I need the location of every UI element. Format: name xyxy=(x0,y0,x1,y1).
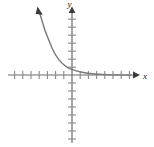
x-axis-arrowhead xyxy=(133,72,140,79)
y-axis-label: y xyxy=(67,0,72,9)
x-axis-label: x xyxy=(142,71,147,81)
curve-arrowhead xyxy=(36,7,43,15)
exponential-decay-graph: y x xyxy=(0,0,154,147)
coordinate-plane: y x xyxy=(0,0,154,147)
exponential-curve xyxy=(40,13,132,76)
